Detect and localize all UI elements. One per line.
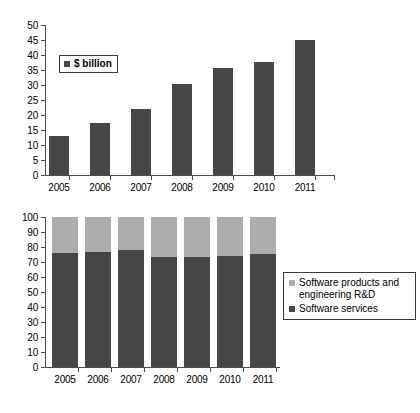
- y-axis-tick-label: 10: [8, 348, 38, 358]
- bar-2008-products-rnd: [151, 217, 177, 257]
- y-axis-tick-label: 40: [8, 303, 38, 313]
- bar-2010-products-rnd: [217, 217, 243, 256]
- x-axis-tick: [111, 368, 112, 372]
- bar-2009-products-rnd: [184, 217, 210, 257]
- bar-2007-services: [118, 250, 144, 367]
- chart-page: 50 45 40 35 30 25 20 15 10 5 0: [0, 0, 420, 413]
- y-axis-tick-label: 20: [8, 333, 38, 343]
- y-axis-tick-label: 90: [8, 228, 38, 238]
- legend-swatch-icon: [289, 306, 295, 312]
- legend-label: Software products and engineering R&D: [299, 277, 399, 300]
- bar-2011-products-rnd: [250, 217, 276, 254]
- bar-2007-products-rnd: [118, 217, 144, 250]
- x-axis-label-2011: 2011: [243, 375, 283, 385]
- y-axis-tick-label: 0: [8, 363, 38, 373]
- bar-2009-services: [184, 257, 210, 367]
- y-axis-tick-label: 30: [8, 318, 38, 328]
- y-axis-tick-label: 70: [8, 258, 38, 268]
- y-axis-tick-label: 80: [8, 243, 38, 253]
- bar-2005-services: [52, 253, 78, 367]
- x-axis-tick: [243, 368, 244, 372]
- legend-label: Software services: [299, 303, 378, 315]
- bar-2006-services: [85, 252, 111, 367]
- x-axis-tick: [78, 368, 79, 372]
- x-axis-tick: [177, 368, 178, 372]
- x-axis-tick: [144, 368, 145, 372]
- y-axis-tick-label: 60: [8, 273, 38, 283]
- y-axis-line: [45, 217, 46, 368]
- bar-2010-services: [217, 256, 243, 367]
- legend-swatch-icon: [289, 280, 295, 286]
- revenue-split-stacked-bar-chart: 100 90 80 70 60 50 40 30 20 10 0: [0, 0, 420, 413]
- bar-2005-products-rnd: [52, 217, 78, 253]
- x-axis-tick: [210, 368, 211, 372]
- y-axis-tick-label: 50: [8, 288, 38, 298]
- bar-2011-services: [250, 254, 276, 367]
- legend-item-software-products: Software products and engineering R&D: [289, 277, 411, 300]
- legend-bottom-chart: Software products and engineering R&D So…: [283, 272, 416, 320]
- x-axis-line: [45, 367, 280, 368]
- y-axis-tick-label: 100: [8, 213, 38, 223]
- bar-2008-services: [151, 257, 177, 367]
- bar-2006-products-rnd: [85, 217, 111, 252]
- legend-item-software-services: Software services: [289, 303, 411, 315]
- x-axis-tick: [276, 368, 277, 372]
